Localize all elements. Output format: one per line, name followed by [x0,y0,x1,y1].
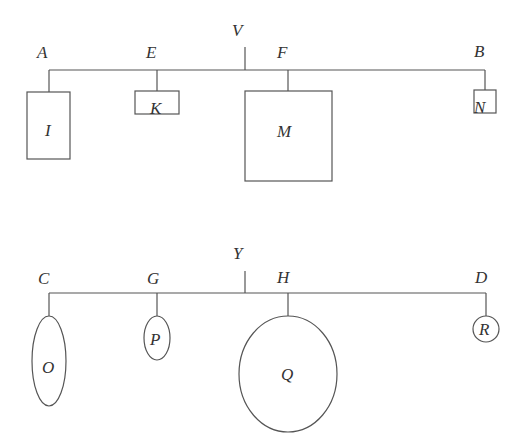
label-C: C [38,269,50,288]
label-D: D [474,268,488,287]
label-H: H [276,268,291,287]
label-I: I [44,121,52,140]
label-M: M [276,122,292,141]
diagram-svg: V A E F B I K M N Y C G H D O [0,0,523,435]
label-G: G [147,269,159,288]
label-N: N [473,98,487,117]
label-R: R [478,320,490,339]
label-O: O [42,358,54,377]
label-V: V [232,21,245,40]
label-K: K [149,99,163,118]
label-B: B [474,42,485,61]
label-P: P [149,330,160,349]
label-F: F [276,43,288,62]
label-Y: Y [233,244,244,263]
top-balance: V A E F B I K M N [27,21,496,181]
balance-diagram: V A E F B I K M N Y C G H D O [0,0,523,435]
label-Q: Q [281,365,293,384]
label-E: E [145,43,157,62]
label-A: A [36,43,48,62]
bottom-balance: Y C G H D O P Q R [32,244,499,432]
